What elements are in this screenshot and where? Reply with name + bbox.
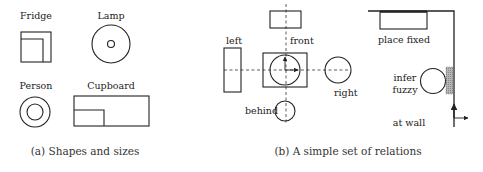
- panel-a-caption: (a) Shapes and sizes: [31, 145, 140, 157]
- person-shape: Person: [20, 80, 53, 127]
- panel-b-relations: front left right behind (b) A simple set…: [224, 4, 422, 157]
- panel-b-caption: (b) A simple set of relations: [274, 145, 421, 157]
- lamp-shape: Lamp: [92, 10, 130, 63]
- front-label: front: [290, 35, 314, 46]
- fridge-label: Fridge: [20, 10, 52, 21]
- left-label: left: [226, 35, 242, 46]
- fuzzy-label: fuzzy: [392, 84, 418, 95]
- wall-corner: [368, 11, 454, 127]
- fuzzy-object: [421, 69, 446, 94]
- person-label: Person: [20, 80, 53, 91]
- fuzzy-region: [446, 67, 453, 94]
- panel-c-wall-relations: place fixed infer fuzzy at wall: [368, 11, 468, 128]
- behind-label: behind: [245, 105, 278, 116]
- reference-object: [263, 53, 307, 87]
- lamp-label: Lamp: [97, 10, 124, 21]
- right-label: right: [334, 87, 358, 98]
- cupboard-shape: Cupboard: [74, 80, 149, 126]
- place-fixed-label: place fixed: [378, 34, 430, 45]
- figure: Fridge Lamp Person Cupboard (a) Shapes a…: [0, 0, 483, 172]
- fridge-shape: Fridge: [20, 10, 52, 62]
- at-wall-label: at wall: [393, 117, 425, 128]
- panel-a-shapes-and-sizes: Fridge Lamp Person Cupboard (a) Shapes a…: [20, 10, 149, 157]
- place-fixed-object: [380, 12, 427, 29]
- cupboard-label: Cupboard: [87, 80, 135, 91]
- infer-label: infer: [394, 72, 417, 83]
- front-object: [270, 11, 301, 28]
